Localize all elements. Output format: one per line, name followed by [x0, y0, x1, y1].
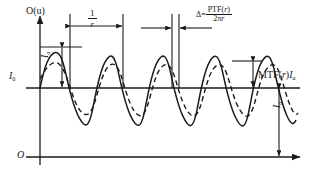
axes [26, 16, 300, 165]
baseline-intensity-label: I0 [9, 71, 15, 82]
mtf-label: MTF(r)Ia [258, 70, 296, 81]
period-guide-lines [70, 14, 123, 88]
phase-shift-symbol: Δ= [196, 11, 206, 19]
origin-label: O [17, 150, 24, 160]
y-axis-label: O(u) [26, 6, 45, 16]
mtf-ptf-figure [0, 0, 311, 178]
object-wave-solid [40, 52, 296, 125]
amplitude-label-left: Ia [40, 52, 51, 58]
period-denominator: r [88, 18, 97, 29]
period-fraction: 1 r [88, 9, 97, 30]
period-numerator: 1 [88, 9, 97, 18]
period-label: 1 r [88, 9, 97, 30]
phase-shift-numerator: PTF(r) [206, 6, 232, 14]
phase-shift-fraction: PTF(r) 2πr [206, 6, 232, 24]
phase-shift-denominator: 2πr [206, 14, 232, 24]
phase-guide-lines [172, 14, 179, 88]
phase-shift-label: Δ= PTF(r) 2πr [196, 6, 232, 24]
amplitude-label-right: Ia [272, 102, 283, 108]
